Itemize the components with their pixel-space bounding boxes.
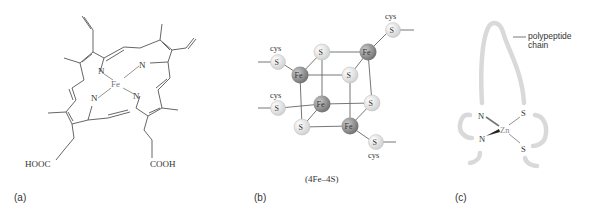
- cys-label-1: cys: [270, 43, 281, 53]
- cys-sulfur-2: S: [275, 104, 279, 113]
- heme-labels: N N N N Fe HOOC COOH (a): [14, 60, 176, 203]
- zinc-finger: N N S S Zn polypeptide chain (c): [455, 23, 572, 203]
- cooh-group: COOH: [150, 159, 176, 169]
- cluster-iron-1: Fe: [363, 48, 371, 57]
- cys-sulfur-1: S: [275, 58, 279, 67]
- cys-label-4: cys: [368, 150, 379, 160]
- polypeptide-chain-loop: [481, 23, 524, 103]
- hooc-group: HOOC: [25, 159, 51, 169]
- cluster-sulfur-1: S: [319, 48, 323, 57]
- zinc-nitrogen-2: N: [479, 134, 485, 144]
- heme-nitrogen-4: N: [133, 91, 140, 101]
- cluster-iron-4: Fe: [345, 122, 353, 131]
- heme-iron: Fe: [111, 79, 120, 89]
- cluster-iron-2: Fe: [295, 71, 303, 80]
- cluster-sulfur-3: S: [369, 99, 373, 108]
- iron-sulfur-atoms: S S S S S S S S Fe Fe Fe Fe cys cys cys …: [254, 11, 401, 203]
- zinc-nitrogen-1: N: [478, 111, 484, 121]
- panel-label-b: (b): [254, 192, 266, 203]
- cluster-iron-3: Fe: [317, 100, 325, 109]
- cys-sulfur-4: S: [373, 138, 377, 147]
- iron-sulfur-cluster: [258, 28, 414, 142]
- heme-nitrogen-1: N: [98, 66, 105, 76]
- panel-label-c: (c): [455, 192, 467, 203]
- cys-sulfur-3: S: [390, 26, 394, 35]
- zinc-sulfur-1: S: [521, 108, 526, 118]
- heme-nitrogen-3: N: [91, 93, 98, 103]
- heme-nitrogen-2: N: [139, 60, 146, 70]
- zinc-sulfur-2: S: [521, 144, 526, 154]
- cluster-sulfur-4: S: [299, 123, 303, 132]
- figure-canvas: N N N N Fe HOOC COOH (a): [0, 0, 608, 212]
- cluster-caption: (4Fe–4S): [305, 174, 339, 184]
- zinc-atom: Zn: [500, 125, 510, 135]
- cluster-sulfur-2: S: [347, 71, 351, 80]
- panel-label-a: (a): [14, 192, 26, 203]
- cys-label-2: cys: [270, 90, 281, 100]
- polypeptide-label-line2: chain: [528, 40, 549, 50]
- cys-label-3: cys: [385, 11, 396, 21]
- heme-structure: [48, 16, 196, 160]
